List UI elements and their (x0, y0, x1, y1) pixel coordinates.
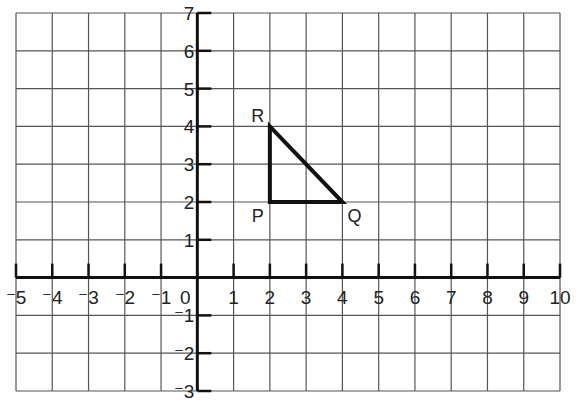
y-tick-label: 3 (184, 154, 195, 175)
x-tick-label: 3 (301, 287, 312, 308)
vertex-label-r: R (251, 106, 264, 126)
x-tick-label: 6 (410, 287, 421, 308)
x-axis-labels: ⁻5⁻4⁻3⁻2⁻1012345678910 (6, 287, 571, 308)
y-tick-label: 7 (184, 3, 195, 24)
y-tick-label: 1 (184, 230, 195, 251)
coordinate-plane: ⁻5⁻4⁻3⁻2⁻1012345678910 7654321⁻1⁻2⁻3 PQR (0, 0, 583, 419)
x-tick-label: 9 (518, 287, 529, 308)
x-tick-label: ⁻5 (6, 287, 27, 308)
vertex-label-p: P (252, 206, 264, 226)
x-tick-label: 5 (373, 287, 384, 308)
grid-svg: ⁻5⁻4⁻3⁻2⁻1012345678910 7654321⁻1⁻2⁻3 PQR (0, 0, 583, 419)
x-tick-label: 1 (228, 287, 239, 308)
y-tick-label: 4 (184, 116, 195, 137)
x-tick-label: ⁻1 (151, 287, 172, 308)
y-tick-label: 6 (184, 41, 195, 62)
x-tick-label: ⁻2 (115, 287, 136, 308)
x-tick-label: ⁻3 (78, 287, 99, 308)
x-tick-label: 8 (482, 287, 493, 308)
y-tick-label: ⁻3 (174, 381, 195, 402)
vertex-label-q: Q (347, 206, 361, 226)
x-tick-label: ⁻4 (42, 287, 63, 308)
x-tick-label: 4 (337, 287, 348, 308)
y-tick-label: 5 (184, 79, 195, 100)
x-tick-label: 2 (265, 287, 276, 308)
y-tick-label: ⁻1 (174, 305, 195, 326)
y-tick-label: 2 (184, 192, 195, 213)
y-tick-label: ⁻2 (174, 343, 195, 364)
x-tick-label: 10 (549, 287, 570, 308)
x-tick-label: 7 (446, 287, 457, 308)
